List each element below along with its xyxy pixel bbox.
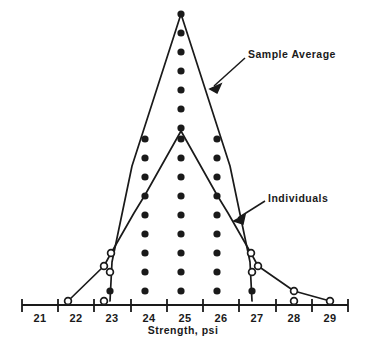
data-dot xyxy=(213,287,220,294)
data-dot xyxy=(141,268,148,275)
open-circle-marker xyxy=(248,250,255,257)
data-dot xyxy=(141,230,148,237)
x-tick-label-24: 24 xyxy=(134,312,164,324)
dot-column-27 xyxy=(248,287,255,294)
data-dot xyxy=(213,249,220,256)
data-dot xyxy=(177,86,184,93)
open-circle-marker xyxy=(291,298,298,305)
data-dot xyxy=(106,287,113,294)
open-circle-markers xyxy=(65,250,334,305)
data-dot xyxy=(213,173,220,180)
data-dot xyxy=(177,268,184,275)
x-tick-label-26: 26 xyxy=(206,312,236,324)
data-dot xyxy=(177,154,184,161)
open-circle-marker xyxy=(65,298,72,305)
data-dot xyxy=(141,249,148,256)
data-dot xyxy=(141,192,148,199)
x-tick-label-29: 29 xyxy=(315,312,345,324)
annotation-sample-average: Sample Average xyxy=(248,48,336,60)
chart-figure: 21 22 23 24 25 26 27 28 29 Sample Averag… xyxy=(0,0,366,348)
dot-column-26 xyxy=(213,135,220,294)
open-circle-marker xyxy=(327,298,334,305)
data-dot xyxy=(213,211,220,218)
data-dot xyxy=(177,249,184,256)
dot-column-24 xyxy=(141,135,148,294)
dot-column-25 xyxy=(177,10,184,294)
data-dot xyxy=(177,230,184,237)
data-dot xyxy=(177,105,184,112)
x-tick-label-23: 23 xyxy=(97,312,127,324)
x-tick-label-21: 21 xyxy=(25,312,55,324)
data-dot xyxy=(177,10,184,17)
x-axis-title: Strength, psi xyxy=(0,324,366,336)
open-circle-marker xyxy=(101,298,108,305)
data-dot xyxy=(177,124,184,131)
data-dot xyxy=(213,230,220,237)
data-dot xyxy=(177,173,184,180)
annotation-individuals: Individuals xyxy=(268,192,328,204)
x-tick-label-28: 28 xyxy=(279,312,309,324)
data-dot xyxy=(213,192,220,199)
data-dot xyxy=(141,173,148,180)
data-dot xyxy=(177,192,184,199)
data-dot xyxy=(177,29,184,36)
open-circle-marker xyxy=(108,250,115,257)
individuals-arrow-line xyxy=(238,201,265,218)
data-dot xyxy=(177,67,184,74)
data-dot xyxy=(177,48,184,55)
open-circle-marker xyxy=(107,269,114,276)
x-tick-label-22: 22 xyxy=(61,312,91,324)
dot-column-23 xyxy=(106,287,113,294)
data-dot xyxy=(213,154,220,161)
open-circle-marker xyxy=(101,263,108,270)
data-dot xyxy=(141,154,148,161)
data-dot xyxy=(213,135,220,142)
data-dot xyxy=(213,268,220,275)
individuals-curve xyxy=(68,131,330,301)
data-dot xyxy=(177,135,184,142)
data-dot xyxy=(141,211,148,218)
data-dot xyxy=(141,287,148,294)
open-circle-marker xyxy=(255,263,262,270)
x-tick-label-27: 27 xyxy=(242,312,272,324)
open-circle-marker xyxy=(291,288,298,295)
data-dot xyxy=(177,287,184,294)
sample-average-arrow-line xyxy=(214,58,245,86)
data-dot xyxy=(248,287,255,294)
data-dot xyxy=(141,135,148,142)
x-tick-label-25: 25 xyxy=(170,312,200,324)
open-circle-marker xyxy=(249,269,256,276)
data-dot xyxy=(177,211,184,218)
